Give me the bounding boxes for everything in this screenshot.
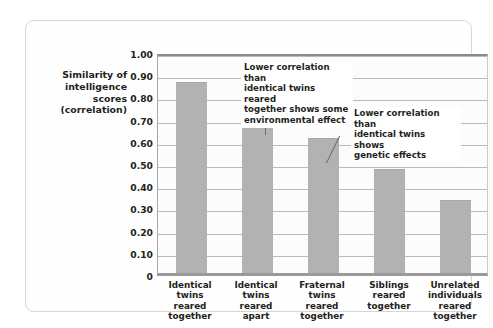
- y-axis-title-line-4: (correlation): [52, 104, 127, 116]
- x-axis-category-label: Unrelatedindividualsrearedtogether: [422, 280, 488, 322]
- x-axis-category-labels: IdenticaltwinsrearedtogetherIdenticaltwi…: [157, 280, 488, 328]
- x-axis-category-label-line: twins: [157, 290, 223, 300]
- y-axis-tick-label: 0.20: [122, 226, 153, 237]
- x-axis-category-label-line: twins: [289, 290, 355, 300]
- y-axis-tick-label: 0.60: [122, 137, 153, 148]
- annotation-environmental-line-3: together shows some: [244, 104, 350, 115]
- y-axis-tick-label: 0.30: [122, 204, 153, 215]
- annotation-genetic-line-3: genetic effects: [354, 150, 458, 161]
- y-axis-title-line-3: scores: [52, 93, 127, 105]
- y-axis-tick-label: 0.80: [122, 93, 153, 104]
- figure-card: Similarity of intelligence scores (corre…: [25, 20, 472, 312]
- y-axis-tick-labels: 1.000.900.800.700.600.500.400.300.200.10…: [122, 54, 153, 276]
- y-axis-tick-label: 0.50: [122, 160, 153, 171]
- x-axis-category-label-line: apart: [223, 311, 289, 321]
- x-axis-category-label: Identicaltwinsrearedtogether: [157, 280, 223, 322]
- annotation-environmental-line-2: identical twins reared: [244, 83, 350, 104]
- x-axis-category-label-line: Unrelated: [422, 280, 488, 290]
- x-axis-category-label-line: reared: [223, 301, 289, 311]
- x-axis-category-label-line: reared: [289, 301, 355, 311]
- x-axis-category-label-line: together: [356, 301, 422, 311]
- x-axis-category-label-line: reared: [356, 290, 422, 300]
- x-axis-category-label-line: twins: [223, 290, 289, 300]
- bar[interactable]: [176, 82, 207, 273]
- bar[interactable]: [374, 169, 405, 273]
- annotation-environmental-line-1: Lower correlation than: [244, 62, 350, 83]
- y-axis-tick-label: 1.00: [122, 49, 153, 60]
- x-axis-category-label-line: reared: [422, 301, 488, 311]
- x-axis-category-label: Fraternaltwinsrearedtogether: [289, 280, 355, 322]
- y-axis-tick-label: 0.70: [122, 115, 153, 126]
- y-axis-tick-label: 0.10: [122, 248, 153, 259]
- x-axis-category-label: Identicaltwinsrearedapart: [223, 280, 289, 322]
- x-axis-category-label-line: together: [157, 311, 223, 321]
- annotation-genetic-line-2: identical twins shows: [354, 129, 458, 150]
- annotation-environmental: Lower correlation than identical twins r…: [241, 61, 353, 128]
- x-axis-category-label: Siblingsrearedtogether: [356, 280, 422, 311]
- x-axis-category-label-line: individuals: [422, 290, 488, 300]
- y-axis-tick-label: 0.40: [122, 182, 153, 193]
- annotation-genetic: Lower correlation than identical twins s…: [351, 107, 461, 163]
- bar[interactable]: [440, 200, 471, 273]
- bar[interactable]: [308, 138, 339, 273]
- annotation-environmental-line-4: environmental effect: [244, 115, 350, 126]
- y-axis-title-line-2: intelligence: [52, 81, 127, 93]
- x-axis-category-label-line: Fraternal: [289, 280, 355, 290]
- x-axis-category-label-line: together: [289, 311, 355, 321]
- y-axis-title-line-1: Similarity of: [52, 69, 127, 81]
- x-axis-category-label-line: reared: [157, 301, 223, 311]
- y-axis-tick-label: 0: [122, 271, 153, 282]
- x-axis-category-label-line: Siblings: [356, 280, 422, 290]
- y-axis-tick-label: 0.90: [122, 71, 153, 82]
- x-axis-category-label-line: together: [422, 311, 488, 321]
- bar[interactable]: [242, 113, 273, 273]
- y-axis-title: Similarity of intelligence scores (corre…: [52, 69, 127, 116]
- annotation-genetic-line-1: Lower correlation than: [354, 108, 458, 129]
- x-axis-category-label-line: Identical: [157, 280, 223, 290]
- x-axis-category-label-line: Identical: [223, 280, 289, 290]
